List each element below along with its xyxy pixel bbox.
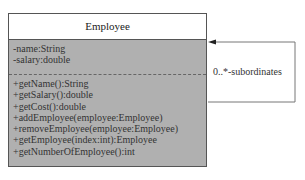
arrowhead-icon <box>208 40 216 45</box>
association-label: 0..*-subordinates <box>213 66 282 77</box>
self-association-connector <box>0 0 305 180</box>
